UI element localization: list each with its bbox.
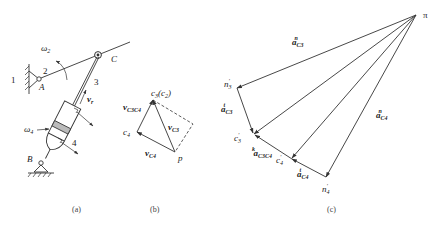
label-omega4: ω4 bbox=[24, 124, 33, 135]
cylinder-4 bbox=[37, 101, 80, 163]
label-link-4: 4 bbox=[72, 138, 77, 148]
label-n4-prime: n4′ bbox=[322, 183, 330, 195]
label-C: C bbox=[111, 54, 118, 64]
label-v-c3: vC3 bbox=[168, 122, 179, 133]
caption-c: (c) bbox=[327, 205, 336, 214]
label-a-c3-t: aC3t bbox=[221, 102, 233, 115]
label-pole-p: p bbox=[177, 153, 183, 163]
label-a-c3-n: aC3n bbox=[292, 35, 304, 48]
label-v-c4: vC4 bbox=[145, 148, 156, 159]
label-c3-prime: c3′ bbox=[234, 132, 241, 144]
label-c4: c4 bbox=[123, 127, 130, 138]
label-link-2: 2 bbox=[43, 66, 48, 76]
acceleration-polygon: π aC3n n3′ aC3t c3′ aC3C4k c4′ aC4t n4′ … bbox=[221, 10, 428, 195]
label-omega2: ω2 bbox=[41, 43, 50, 54]
label-v-c3c4: vC3C4 bbox=[123, 102, 141, 113]
label-A: A bbox=[38, 82, 45, 92]
label-c4-prime: c4′ bbox=[276, 154, 283, 166]
label-B: B bbox=[27, 154, 33, 164]
label-frame-1: 1 bbox=[11, 75, 16, 85]
velocity-polygon: c3(c2) vC3C4 c4 vC3 vC4 p bbox=[123, 88, 193, 163]
label-a-c4-n: aC4n bbox=[376, 108, 388, 121]
label-vr: vr bbox=[87, 94, 94, 105]
kinematics-figure: 1 2 3 4 A B C ω2 ω4 vr c3(c2) vC3C4 c4 v… bbox=[0, 0, 438, 228]
label-link-3: 3 bbox=[94, 77, 99, 87]
label-n3-prime: n3′ bbox=[224, 78, 232, 90]
label-a-c3c4-k: aC3C4k bbox=[252, 146, 272, 159]
label-pole-pi: π bbox=[423, 10, 428, 20]
caption-b: (b) bbox=[150, 205, 160, 214]
label-c3-c2: c3(c2) bbox=[151, 88, 171, 99]
label-a-c4-t: aC4t bbox=[297, 167, 309, 180]
caption-a: (a) bbox=[72, 205, 81, 214]
mechanism-diagram: 1 2 3 4 A B C ω2 ω4 vr bbox=[11, 42, 130, 177]
